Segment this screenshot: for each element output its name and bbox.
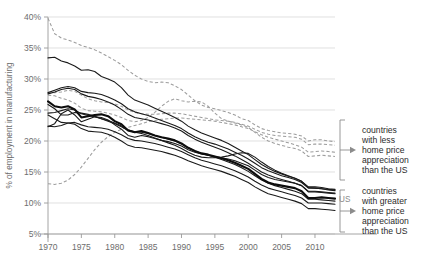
annotation-lower-line: appreciation [362,216,409,226]
y-tick-label: 5% [29,229,42,239]
us-series-label: US [339,195,351,204]
annotation-lower-line: home price [362,206,405,216]
employment-manufacturing-line-chart: 5%10%15%20%25%30%35%40% 1970197519801985… [0,0,422,277]
x-tick-label: 1985 [139,242,158,252]
annotation-upper-line: countries [362,125,397,135]
annotation-upper-line: home price [362,145,405,155]
y-axis-title-text: % of employment in manufacturing [5,62,14,189]
x-tick-label: 2000 [239,242,258,252]
y-tick-label: 25% [24,105,41,115]
annotation-upper-line: with less [361,135,395,145]
x-axis-tick-labels: 197019751980198519901995200020052010 [39,234,325,252]
y-tick-label: 10% [24,198,41,208]
y-tick-label: 15% [24,167,41,177]
annotation-upper-line: appreciation [362,155,409,165]
annotation-upper-line: than the US [362,165,408,175]
x-tick-label: 1980 [105,242,124,252]
chart-container: 5%10%15%20%25%30%35%40% 1970197519801985… [0,0,422,277]
x-tick-label: 1975 [72,242,91,252]
x-tick-label: 1995 [205,242,224,252]
y-tick-label: 20% [24,136,41,146]
annotation-lower-line: with greater [361,196,407,206]
x-tick-label: 1990 [172,242,191,252]
chart-background [0,0,422,277]
y-tick-label: 35% [24,43,41,53]
x-tick-label: 2005 [272,242,291,252]
annotation-lower-line: countries [362,186,397,196]
annotation-lower-line: than the US [362,226,408,236]
y-tick-label: 30% [24,74,41,84]
x-tick-label: 1970 [39,242,58,252]
y-tick-label: 40% [24,12,41,22]
y-axis-title: % of employment in manufacturing [5,62,14,189]
x-tick-label: 2010 [306,242,325,252]
